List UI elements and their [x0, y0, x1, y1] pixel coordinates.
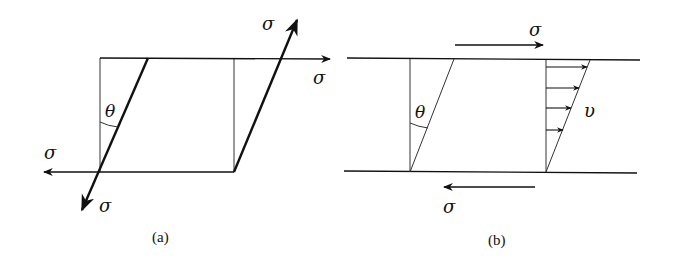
panel-b: θ υ σ σ (b) — [344, 19, 640, 249]
sigma-label-top-b: σ — [529, 19, 542, 40]
left-slanted-arrow — [82, 58, 148, 210]
top-edge-arrow — [100, 58, 330, 59]
sigma-label-right: σ — [313, 67, 326, 88]
shear-diagram: θ σ σ σ σ (a) θ υ σ σ (b) — [0, 0, 674, 263]
right-slanted-arrow — [234, 20, 297, 172]
theta-label-b: θ — [415, 102, 425, 122]
caption-a: (a) — [152, 229, 169, 246]
sigma-label-left: σ — [44, 142, 57, 163]
theta-arc-b — [410, 123, 428, 128]
sigma-label-bottom-diag: σ — [99, 195, 112, 216]
top-plate — [347, 58, 640, 60]
sigma-label-top-diag: σ — [262, 13, 275, 34]
caption-b: (b) — [488, 232, 506, 249]
velocity-label: υ — [584, 100, 595, 121]
theta-arc — [100, 122, 118, 127]
sigma-label-bottom-b: σ — [443, 196, 456, 217]
theta-label: θ — [105, 101, 115, 121]
bottom-plate — [344, 171, 637, 173]
panel-a: θ σ σ σ σ (a) — [44, 13, 330, 246]
